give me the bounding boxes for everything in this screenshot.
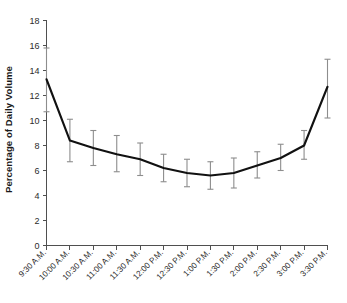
- y-axis-ticks: 024681012141618: [29, 16, 46, 251]
- y-tick-label: 16: [29, 41, 39, 51]
- y-tick-label: 8: [34, 141, 39, 151]
- chart-figure: Percentage of Daily Volume 0246810121416…: [0, 0, 347, 303]
- x-axis-tick-labels: 9:30 A.M.10:00 A.M.10:30 A.M.11:00 A.M.1…: [17, 248, 329, 282]
- axis-lines: [47, 21, 328, 246]
- y-tick-label: 14: [29, 66, 39, 76]
- y-tick-label: 10: [29, 116, 39, 126]
- y-tick-label: 12: [29, 91, 39, 101]
- y-tick-label: 4: [34, 191, 39, 201]
- chart-plot-area: 024681012141618 9:30 A.M.10:00 A.M.10:30…: [0, 0, 347, 303]
- y-tick-label: 6: [34, 166, 39, 176]
- y-tick-label: 18: [29, 16, 39, 26]
- y-tick-label: 0: [34, 241, 39, 251]
- error-bars: [44, 48, 331, 189]
- y-tick-label: 2: [34, 216, 39, 226]
